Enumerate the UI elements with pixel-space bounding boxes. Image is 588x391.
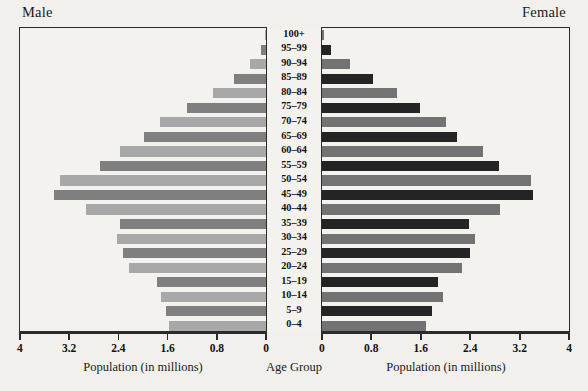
bar-right-55_59 [322, 161, 499, 171]
axis-tick [68, 332, 70, 340]
bar-left-100+ [265, 30, 266, 40]
age-group-label: 90–94 [267, 57, 321, 68]
bar-right-5_9 [322, 306, 432, 316]
bar-left-45_49 [54, 190, 266, 200]
bar-row [322, 204, 569, 214]
axis-tick-label: 0 [319, 342, 325, 354]
bar-row [20, 234, 266, 244]
bar-row [20, 204, 266, 214]
bar-row [20, 175, 266, 185]
bar-right-60_64 [322, 146, 483, 156]
age-group-label: 85–89 [267, 71, 321, 82]
bar-row [20, 132, 266, 142]
female-axis-line [321, 332, 570, 334]
bar-left-5_9 [166, 306, 266, 316]
bar-left-35_39 [120, 219, 266, 229]
bar-row [20, 74, 266, 84]
bar-left-55_59 [100, 161, 266, 171]
bar-left-40_44 [86, 204, 266, 214]
bar-row [20, 321, 266, 331]
bar-right-50_54 [322, 175, 531, 185]
bar-row [322, 306, 569, 316]
bar-right-90_94 [322, 59, 350, 69]
bar-right-75_79 [322, 103, 420, 113]
bar-row [20, 146, 266, 156]
age-group-label: 100+ [267, 28, 321, 39]
bar-row [322, 248, 569, 258]
age-group-label: 65–69 [267, 130, 321, 141]
bar-row [322, 161, 569, 171]
bar-row [322, 263, 569, 273]
bar-right-95_99 [322, 45, 331, 55]
bar-row [20, 161, 266, 171]
age-group-label: 15–19 [267, 275, 321, 286]
age-group-label: 30–34 [267, 231, 321, 242]
bar-right-10_14 [322, 292, 443, 302]
bar-row [322, 45, 569, 55]
bar-row [322, 277, 569, 287]
bar-row [20, 219, 266, 229]
bar-row [20, 306, 266, 316]
male-panel-title: Male [22, 4, 53, 21]
axis-tick [118, 332, 120, 340]
axis-tick [420, 332, 422, 340]
axis-tick [519, 332, 521, 340]
bar-left-75_79 [187, 103, 266, 113]
bar-right-25_29 [322, 248, 470, 258]
bar-left-25_29 [123, 248, 266, 258]
age-group-label: 5–9 [267, 304, 321, 315]
axis-tick [19, 332, 21, 340]
age-group-labels: 100+95–9990–9485–8980–8475–7970–7465–696… [267, 27, 321, 332]
bar-left-10_14 [161, 292, 266, 302]
bar-row [322, 74, 569, 84]
bar-row [322, 117, 569, 127]
bar-row [322, 103, 569, 113]
bar-right-0_4 [322, 321, 426, 331]
bar-row [20, 248, 266, 258]
bar-row [20, 45, 266, 55]
bar-row [20, 117, 266, 127]
axis-tick-label: 4 [566, 342, 572, 354]
age-group-label: 95–99 [267, 42, 321, 53]
bar-row [20, 292, 266, 302]
male-axis-title: Population (in millions) [83, 360, 202, 375]
bar-right-15_19 [322, 277, 438, 287]
age-group-label: 75–79 [267, 100, 321, 111]
age-group-label: 60–64 [267, 144, 321, 155]
axis-tick-label: 0 [263, 342, 269, 354]
age-group-label: 70–74 [267, 115, 321, 126]
female-axis-title: Population (in millions) [386, 360, 505, 375]
population-pyramid-chart: Male Female 100+95–9990–9485–8980–8475–7… [0, 0, 588, 391]
female-x-axis: 00.81.62.43.24 [321, 332, 570, 362]
axis-tick [265, 332, 267, 340]
age-group-label: 55–59 [267, 159, 321, 170]
axis-tick [469, 332, 471, 340]
axis-tick-label: 1.6 [414, 342, 428, 354]
bar-left-95_99 [261, 45, 266, 55]
bar-left-65_69 [144, 132, 266, 142]
axis-tick [370, 332, 372, 340]
bar-row [322, 88, 569, 98]
bar-left-80_84 [213, 88, 266, 98]
bar-row [20, 190, 266, 200]
bar-right-80_84 [322, 88, 397, 98]
axis-tick-label: 0.8 [364, 342, 378, 354]
axis-tick-label: 0.8 [210, 342, 224, 354]
bar-right-65_69 [322, 132, 457, 142]
bar-row [322, 292, 569, 302]
male-x-axis: 43.22.41.60.80 [19, 332, 267, 362]
bar-right-30_34 [322, 234, 475, 244]
bar-row [322, 146, 569, 156]
bar-left-85_89 [234, 74, 266, 84]
age-group-label: 50–54 [267, 173, 321, 184]
center-axis-title: Age Group [266, 360, 322, 375]
bar-right-35_39 [322, 219, 469, 229]
bar-row [20, 103, 266, 113]
axis-tick-label: 2.4 [111, 342, 125, 354]
bar-row [322, 321, 569, 331]
bar-right-70_74 [322, 117, 446, 127]
age-group-label: 20–24 [267, 260, 321, 271]
age-group-label: 25–29 [267, 246, 321, 257]
axis-tick [167, 332, 169, 340]
bar-left-50_54 [60, 175, 266, 185]
